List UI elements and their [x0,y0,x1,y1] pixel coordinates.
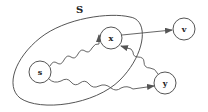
edge-s-to-y [49,79,154,90]
graph-diagram: S s x v y [0,0,208,112]
node-s-label: s [38,67,43,77]
node-y-label: y [162,78,168,88]
node-v: v [173,18,195,40]
edge-x-to-v [122,30,172,35]
node-x: x [100,27,122,49]
node-v-label: v [181,24,187,34]
node-y: y [154,72,176,94]
edge-s-to-x [50,35,99,66]
node-s: s [29,61,51,83]
set-s-boundary [13,15,142,105]
set-s-label: S [76,4,83,15]
node-x-label: x [109,33,114,43]
